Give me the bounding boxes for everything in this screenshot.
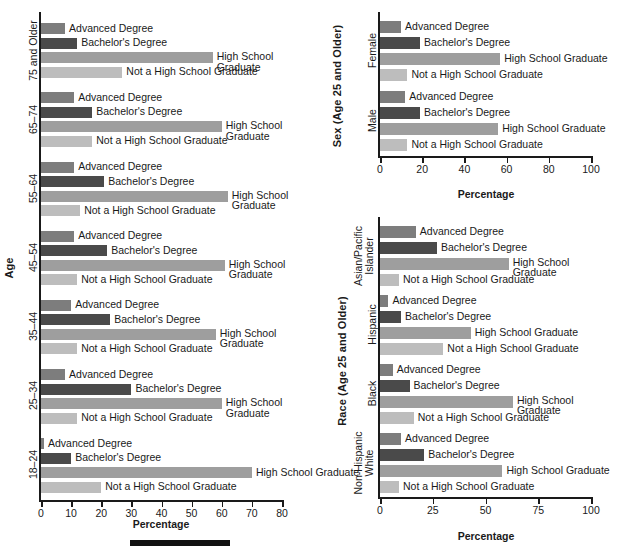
bar-advanced-degree[interactable] <box>41 369 65 380</box>
bar-advanced-degree[interactable] <box>380 21 401 33</box>
group-label-male: Male <box>367 75 378 167</box>
bar-not-a-high-school-graduate[interactable] <box>380 412 414 424</box>
bar-advanced-degree[interactable] <box>380 295 388 307</box>
bar-bachelor-s-degree[interactable] <box>380 380 410 392</box>
bar-label-bachelor-s-degree: Bachelor's Degree <box>441 242 527 253</box>
x-tick-label-sex-100: 100 <box>582 163 600 175</box>
bar-bachelor-s-degree[interactable] <box>380 107 420 119</box>
bar-label-not-a-high-school-graduate: Not a High School Graduate <box>105 481 236 492</box>
x-tick-age-50 <box>192 502 194 507</box>
bar-label-not-a-high-school-graduate: Not a High School Graduate <box>96 135 227 146</box>
bar-label-advanced-degree: Advanced Degree <box>405 433 489 444</box>
x-tick-label-age-80: 80 <box>276 507 288 519</box>
x-tick-age-60 <box>222 502 224 507</box>
bar-bachelor-s-degree[interactable] <box>380 449 424 461</box>
bar-label-advanced-degree: Advanced Degree <box>397 364 481 375</box>
bottom-rule <box>130 540 230 546</box>
group-label-18-24: 18–24 <box>28 419 39 511</box>
x-axis-line-sex <box>378 156 593 158</box>
bar-label-high-school-graduate: High SchoolGraduate <box>229 259 286 280</box>
bar-high-school-graduate[interactable] <box>41 121 222 132</box>
bar-label-not-a-high-school-graduate: Not a High School Graduate <box>418 412 549 423</box>
bar-label-advanced-degree: Advanced Degree <box>78 92 162 103</box>
bar-bachelor-s-degree[interactable] <box>380 311 401 323</box>
bar-not-a-high-school-graduate[interactable] <box>41 343 77 354</box>
bar-advanced-degree[interactable] <box>380 364 393 376</box>
bar-bachelor-s-degree[interactable] <box>380 37 420 49</box>
x-tick-label-race-50: 50 <box>480 504 492 516</box>
bar-advanced-degree[interactable] <box>41 23 65 34</box>
bar-label-not-a-high-school-graduate: Not a High School Graduate <box>81 412 212 423</box>
x-tick-sex-100 <box>591 158 593 163</box>
x-tick-race-25 <box>433 499 435 504</box>
x-tick-race-100 <box>591 499 593 504</box>
bar-high-school-graduate[interactable] <box>41 260 225 271</box>
bar-label-bachelor-s-degree: Bachelor's Degree <box>81 37 167 48</box>
bar-not-a-high-school-graduate[interactable] <box>41 482 101 493</box>
chart-panel-age: Age 75 and OlderAdvanced DegreeBachelor'… <box>0 0 305 553</box>
bar-advanced-degree[interactable] <box>41 231 74 242</box>
bar-high-school-graduate[interactable] <box>380 123 498 135</box>
bar-bachelor-s-degree[interactable] <box>41 453 71 464</box>
bar-bachelor-s-degree[interactable] <box>41 384 131 395</box>
bar-label-not-a-high-school-graduate: Not a High School Graduate <box>411 69 542 80</box>
bar-label-bachelor-s-degree: Bachelor's Degree <box>424 107 510 118</box>
bar-label-advanced-degree: Advanced Degree <box>48 438 132 449</box>
bar-high-school-graduate[interactable] <box>380 327 471 339</box>
bar-advanced-degree[interactable] <box>380 91 405 103</box>
bar-label-bachelor-s-degree: Bachelor's Degree <box>405 311 491 322</box>
bar-high-school-graduate[interactable] <box>380 258 509 270</box>
bar-label-bachelor-s-degree: Bachelor's Degree <box>428 449 514 460</box>
bar-not-a-high-school-graduate[interactable] <box>41 413 77 424</box>
bar-label-not-a-high-school-graduate: Not a High School Graduate <box>403 481 534 492</box>
bar-bachelor-s-degree[interactable] <box>41 38 77 49</box>
bar-label-bachelor-s-degree: Bachelor's Degree <box>108 176 194 187</box>
bar-not-a-high-school-graduate[interactable] <box>41 274 77 285</box>
bar-high-school-graduate[interactable] <box>380 53 500 65</box>
plot-area-age: 75 and OlderAdvanced DegreeBachelor's De… <box>39 12 284 500</box>
x-tick-sex-80 <box>549 158 551 163</box>
bar-high-school-graduate[interactable] <box>41 467 252 478</box>
bar-not-a-high-school-graduate[interactable] <box>380 69 407 81</box>
bar-advanced-degree[interactable] <box>380 226 416 238</box>
bar-bachelor-s-degree[interactable] <box>41 314 110 325</box>
bar-label-bachelor-s-degree: Bachelor's Degree <box>96 106 182 117</box>
bar-label-advanced-degree: Advanced Degree <box>392 295 476 306</box>
bar-label-bachelor-s-degree: Bachelor's Degree <box>424 37 510 48</box>
bar-not-a-high-school-graduate[interactable] <box>41 136 92 147</box>
x-tick-age-20 <box>101 502 103 507</box>
x-tick-label-race-0: 0 <box>377 504 383 516</box>
bar-high-school-graduate[interactable] <box>41 52 213 63</box>
bar-bachelor-s-degree[interactable] <box>41 107 92 118</box>
bar-not-a-high-school-graduate[interactable] <box>41 205 80 216</box>
bar-high-school-graduate[interactable] <box>41 398 222 409</box>
bar-advanced-degree[interactable] <box>41 300 71 311</box>
bar-not-a-high-school-graduate[interactable] <box>380 139 407 151</box>
bar-not-a-high-school-graduate[interactable] <box>41 67 122 78</box>
bar-label-bachelor-s-degree: Bachelor's Degree <box>111 245 197 256</box>
bar-advanced-degree[interactable] <box>41 438 44 449</box>
bar-high-school-graduate[interactable] <box>41 191 228 202</box>
bar-not-a-high-school-graduate[interactable] <box>380 274 399 286</box>
x-tick-label-age-10: 10 <box>65 507 77 519</box>
x-tick-label-race-100: 100 <box>582 504 600 516</box>
x-tick-sex-20 <box>422 158 424 163</box>
x-tick-age-40 <box>162 502 164 507</box>
bar-advanced-degree[interactable] <box>41 162 74 173</box>
bar-advanced-degree[interactable] <box>41 92 74 103</box>
bar-label-high-school-graduate: High School Graduate <box>502 123 605 134</box>
plot-area-race: Asian/PacificIslanderAdvanced DegreeBach… <box>378 217 593 497</box>
bar-advanced-degree[interactable] <box>380 433 401 445</box>
bar-high-school-graduate[interactable] <box>380 396 513 408</box>
bar-label-not-a-high-school-graduate: Not a High School Graduate <box>447 343 578 354</box>
x-tick-label-sex-40: 40 <box>459 163 471 175</box>
bar-bachelor-s-degree[interactable] <box>41 245 107 256</box>
bar-label-high-school-graduate: High SchoolGraduate <box>232 190 289 211</box>
bar-bachelor-s-degree[interactable] <box>380 242 437 254</box>
bar-label-bachelor-s-degree: Bachelor's Degree <box>135 383 221 394</box>
bar-high-school-graduate[interactable] <box>41 329 216 340</box>
bar-high-school-graduate[interactable] <box>380 465 502 477</box>
bar-bachelor-s-degree[interactable] <box>41 176 104 187</box>
bar-not-a-high-school-graduate[interactable] <box>380 343 443 355</box>
bar-not-a-high-school-graduate[interactable] <box>380 481 399 493</box>
